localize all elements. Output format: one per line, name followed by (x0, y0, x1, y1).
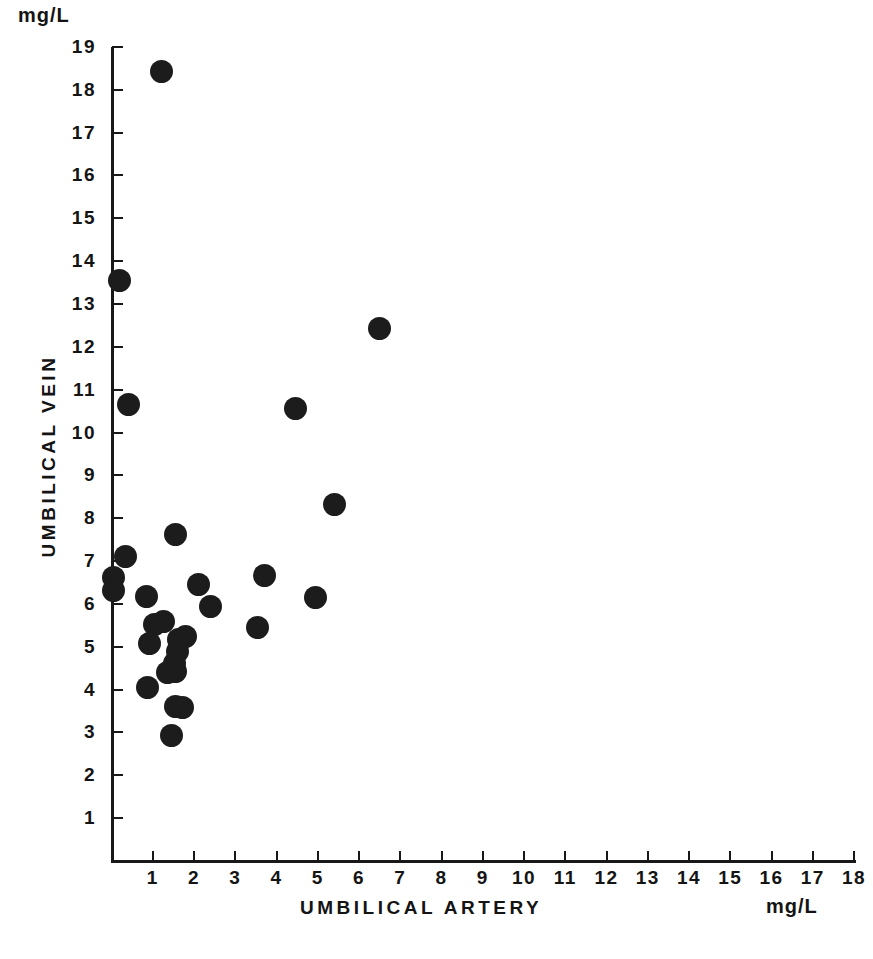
data-point (199, 595, 222, 618)
data-point (160, 724, 183, 747)
data-point (304, 586, 327, 609)
data-points-layer (0, 0, 873, 959)
data-point (323, 493, 346, 516)
data-point (138, 632, 161, 655)
x-axis-unit-label: mg/L (766, 895, 818, 918)
data-point (368, 317, 391, 340)
data-point (135, 585, 158, 608)
data-point (102, 579, 125, 602)
data-point (114, 545, 137, 568)
data-point (150, 60, 173, 83)
data-point (156, 661, 179, 684)
data-point (164, 523, 187, 546)
x-axis-title: UMBILICAL ARTERY (300, 897, 542, 919)
data-point (117, 393, 140, 416)
data-point (284, 397, 307, 420)
data-point (171, 696, 194, 719)
data-point (136, 676, 159, 699)
data-point (187, 573, 210, 596)
data-point (253, 564, 276, 587)
data-point (108, 269, 131, 292)
data-point (246, 616, 269, 639)
scatter-plot-figure: mg/L UMBILICAL VEIN 12345678910111213141… (0, 0, 873, 959)
